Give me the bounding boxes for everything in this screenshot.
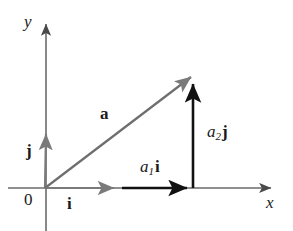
unit-vector-i-label: i	[67, 195, 72, 212]
unit-vector-j-label: j	[26, 142, 32, 159]
component-a1i-label: a1i	[140, 158, 160, 177]
y-axis-label: y	[24, 13, 32, 30]
vector-decomposition-figure: y x 0 i j a a1i a2j	[0, 0, 293, 231]
x-axis-label: x	[266, 194, 274, 211]
component-a2j-scalar: a	[207, 122, 216, 141]
figure-canvas	[0, 0, 293, 231]
vector-a-arrow	[45, 77, 191, 188]
vector-a-label: a	[100, 105, 109, 122]
component-a2j-unit: j	[222, 122, 228, 141]
component-a2j-subscript: 2	[216, 130, 222, 142]
component-a2j-label: a2j	[207, 123, 228, 142]
origin-label: 0	[24, 191, 33, 208]
component-a1i-subscript: 1	[149, 165, 155, 177]
unit-vector-j-arrow	[45, 134, 46, 188]
component-a1i-unit: i	[155, 157, 160, 176]
component-a1i-scalar: a	[140, 157, 149, 176]
